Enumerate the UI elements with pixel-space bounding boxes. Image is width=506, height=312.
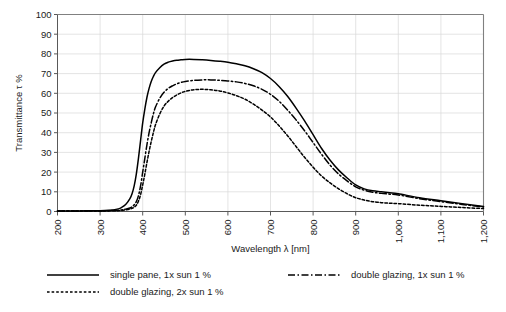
x-tick-label: 700 xyxy=(265,220,276,236)
x-tick-label: 1,200 xyxy=(478,220,489,244)
y-tick-label: 10 xyxy=(41,186,52,197)
x-tick-label: 500 xyxy=(180,220,191,236)
x-tick-label: 800 xyxy=(308,220,319,236)
y-axis-title: Transmittance τ % xyxy=(13,74,24,152)
x-tick-label: 900 xyxy=(350,220,361,236)
legend-label: single pane, 1x sun 1 % xyxy=(110,269,211,280)
y-tick-label: 70 xyxy=(41,68,52,79)
chart-background xyxy=(0,0,506,312)
y-tick-label: 50 xyxy=(41,107,52,118)
x-tick-label: 1,100 xyxy=(435,220,446,244)
y-tick-label: 80 xyxy=(41,48,52,59)
y-tick-label: 90 xyxy=(41,29,52,40)
y-tick-label: 40 xyxy=(41,127,52,138)
y-tick-label: 20 xyxy=(41,167,52,178)
y-tick-label: 0 xyxy=(46,206,51,217)
x-tick-label: 300 xyxy=(95,220,106,236)
transmittance-line-chart: 0102030405060708090100 20030040050060070… xyxy=(0,0,506,312)
y-tick-label: 100 xyxy=(36,9,52,20)
legend-label: double glazing, 1x sun 1 % xyxy=(351,269,465,280)
chart-container: 0102030405060708090100 20030040050060070… xyxy=(0,0,506,312)
y-tick-label: 60 xyxy=(41,88,52,99)
x-tick-label: 600 xyxy=(222,220,233,236)
x-axis-title: Wavelength λ [nm] xyxy=(231,243,309,254)
legend-label: double glazing, 2x sun 1 % xyxy=(110,286,224,297)
x-tick-label: 200 xyxy=(52,220,63,236)
x-tick-label: 1,000 xyxy=(393,220,404,244)
y-tick-label: 30 xyxy=(41,147,52,158)
x-tick-label: 400 xyxy=(137,220,148,236)
